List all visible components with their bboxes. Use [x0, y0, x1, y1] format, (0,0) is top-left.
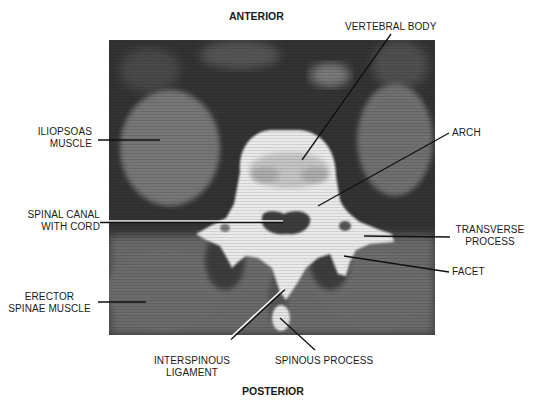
iliopsoas-line2: MUSCLE [20, 138, 92, 150]
spinous-process-label: SPINOUS PROCESS [275, 355, 373, 367]
transverse-line2: PROCESS [450, 236, 530, 248]
arch-label: ARCH [452, 127, 481, 139]
spinal-canal-line2: WITH CORD [5, 221, 100, 233]
spinal-canal-label: SPINAL CANAL WITH CORD [5, 209, 100, 233]
interspinous-ligament-label: INTERSPINOUS LIGAMENT [147, 355, 237, 379]
interspinous-line1: INTERSPINOUS [147, 355, 237, 367]
transverse-line1: TRANSVERSE [450, 224, 530, 236]
transverse-process-label: TRANSVERSE PROCESS [450, 224, 530, 248]
iliopsoas-line1: ILIOPSOAS [20, 126, 92, 138]
erector-spinae-label: ERECTOR SPINAE MUSCLE [2, 291, 97, 315]
spinal-canal-line1: SPINAL CANAL [5, 209, 100, 221]
iliopsoas-muscle-label: ILIOPSOAS MUSCLE [20, 126, 92, 150]
erector-line1: ERECTOR [2, 291, 97, 303]
interspinous-line2: LIGAMENT [147, 367, 237, 379]
facet-label: FACET [452, 266, 485, 278]
orientation-anterior-label: ANTERIOR [229, 10, 284, 22]
orientation-posterior-label: POSTERIOR [242, 385, 304, 397]
ct-axial-lumbar-vertebra-image [0, 0, 537, 401]
vertebral-body-label: VERTEBRAL BODY [345, 21, 436, 33]
erector-line2: SPINAE MUSCLE [2, 303, 97, 315]
